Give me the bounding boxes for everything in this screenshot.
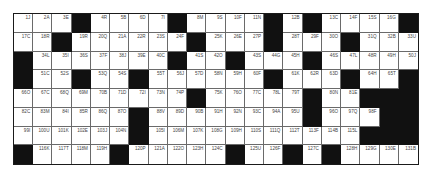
grid-cell[interactable]: 112T (283, 127, 302, 146)
grid-cell[interactable]: 45H (283, 52, 302, 71)
grid-cell[interactable]: 32B (380, 33, 399, 52)
grid-cell[interactable]: 108G (206, 127, 225, 146)
grid-cell[interactable]: 126F (264, 145, 283, 164)
grid-cell[interactable]: 71D (110, 89, 129, 108)
grid-cell[interactable]: 56J (168, 70, 187, 89)
grid-cell[interactable]: 89D (168, 108, 187, 127)
grid-cell[interactable]: 34L (33, 52, 52, 71)
grid-cell[interactable]: 98F (360, 108, 379, 127)
grid-cell[interactable]: 12B (283, 14, 302, 33)
grid-cell[interactable]: 115L (341, 127, 360, 146)
grid-cell[interactable]: 16G (380, 14, 399, 33)
grid-cell[interactable]: 14F (341, 14, 360, 33)
grid-cell[interactable]: 100U (33, 127, 52, 146)
grid-cell[interactable]: 25K (206, 33, 225, 52)
grid-cell[interactable]: 57D (187, 70, 206, 89)
grid-cell[interactable]: 65T (380, 70, 399, 89)
grid-cell[interactable]: 30O (322, 33, 341, 52)
grid-cell[interactable]: 127C (303, 145, 322, 164)
grid-cell[interactable]: 51C (33, 70, 52, 89)
grid-cell[interactable]: 19R (72, 33, 91, 52)
grid-cell[interactable]: 22R (129, 33, 148, 52)
grid-cell[interactable]: 113F (303, 127, 322, 146)
grid-cell[interactable]: 2A (33, 14, 52, 33)
grid-cell[interactable]: 81E (341, 89, 360, 108)
grid-cell[interactable]: 44G (264, 52, 283, 71)
grid-cell[interactable]: 82C (14, 108, 33, 127)
grid-cell[interactable]: 53Q (91, 70, 110, 89)
grid-cell[interactable]: 91H (206, 108, 225, 127)
grid-cell[interactable]: 50J (399, 52, 418, 71)
grid-cell[interactable]: 72I (129, 89, 148, 108)
grid-cell[interactable]: 118M (72, 145, 91, 164)
grid-cell[interactable]: 86Q (91, 108, 110, 127)
grid-cell[interactable]: 85R (72, 108, 91, 127)
grid-cell[interactable]: 6D (129, 14, 148, 33)
grid-cell[interactable]: 49H (380, 52, 399, 71)
grid-cell[interactable]: 80N (322, 89, 341, 108)
grid-cell[interactable]: 18R (33, 33, 52, 52)
grid-cell[interactable]: 48R (360, 52, 379, 71)
grid-cell[interactable]: 129G (360, 145, 379, 164)
grid-cell[interactable]: 105I (149, 127, 168, 146)
grid-cell[interactable]: 131B (399, 145, 418, 164)
grid-cell[interactable]: 125U (245, 145, 264, 164)
grid-cell[interactable]: 104N (110, 127, 129, 146)
grid-cell[interactable]: 47L (341, 52, 360, 71)
grid-cell[interactable]: 66O (14, 89, 33, 108)
grid-cell[interactable]: 55T (149, 70, 168, 89)
grid-cell[interactable]: 59H (226, 70, 245, 89)
grid-cell[interactable]: 84I (52, 108, 71, 127)
grid-cell[interactable]: 128H (341, 145, 360, 164)
grid-cell[interactable]: 119H (91, 145, 110, 164)
grid-cell[interactable]: 13C (322, 14, 341, 33)
grid-cell[interactable]: 21A (110, 33, 129, 52)
grid-cell[interactable]: 42O (206, 52, 225, 71)
grid-cell[interactable]: 79T (283, 89, 302, 108)
grid-cell[interactable]: 52S (52, 70, 71, 89)
grid-cell[interactable]: 67C (33, 89, 52, 108)
grid-cell[interactable]: 40C (149, 52, 168, 71)
grid-cell[interactable]: 109H (226, 127, 245, 146)
grid-cell[interactable]: 31Q (360, 33, 379, 52)
grid-cell[interactable]: 123H (187, 145, 206, 164)
grid-cell[interactable]: 58N (206, 70, 225, 89)
grid-cell[interactable]: 93C (245, 108, 264, 127)
grid-cell[interactable]: 121A (149, 145, 168, 164)
grid-cell[interactable]: 23S (149, 33, 168, 52)
grid-cell[interactable]: 28T (283, 33, 302, 52)
grid-cell[interactable]: 103J (91, 127, 110, 146)
grid-cell[interactable]: 97Q (341, 108, 360, 127)
grid-cell[interactable]: 120P (129, 145, 148, 164)
grid-cell[interactable]: 122O (168, 145, 187, 164)
grid-cell[interactable]: 62R (303, 70, 322, 89)
grid-cell[interactable]: 96O (322, 108, 341, 127)
grid-cell[interactable]: 27P (245, 33, 264, 52)
grid-cell[interactable]: 37F (91, 52, 110, 71)
grid-cell[interactable]: 92N (226, 108, 245, 127)
grid-cell[interactable]: 26E (226, 33, 245, 52)
grid-cell[interactable]: 106M (168, 127, 187, 146)
grid-cell[interactable]: 68Q (52, 89, 71, 108)
grid-cell[interactable]: 69M (72, 89, 91, 108)
grid-cell[interactable]: 39E (129, 52, 148, 71)
grid-cell[interactable]: 74P (168, 89, 187, 108)
grid-cell[interactable]: 38J (110, 52, 129, 71)
grid-cell[interactable]: 130E (380, 145, 399, 164)
grid-cell[interactable]: 46S (322, 52, 341, 71)
grid-cell[interactable]: 95U (283, 108, 302, 127)
grid-cell[interactable]: 7I (149, 14, 168, 33)
grid-cell[interactable]: 63D (322, 70, 341, 89)
grid-cell[interactable]: 41S (187, 52, 206, 71)
grid-cell[interactable]: 17C (14, 33, 33, 52)
grid-cell[interactable]: 29F (303, 33, 322, 52)
grid-cell[interactable]: 117T (52, 145, 71, 164)
grid-cell[interactable]: 73N (149, 89, 168, 108)
grid-cell[interactable]: 78L (264, 89, 283, 108)
grid-cell[interactable]: 61K (283, 70, 302, 89)
grid-cell[interactable]: 77C (245, 89, 264, 108)
grid-cell[interactable]: 90B (187, 108, 206, 127)
grid-cell[interactable]: 11N (245, 14, 264, 33)
grid-cell[interactable]: 20Q (91, 33, 110, 52)
grid-cell[interactable]: 111Q (264, 127, 283, 146)
